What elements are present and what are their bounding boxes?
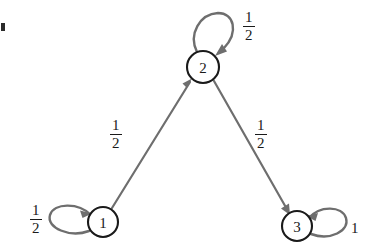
edge-1-to-2 — [112, 79, 192, 209]
edge-1-to-2-line — [112, 82, 190, 208]
edge-2-to-3-line — [214, 81, 288, 211]
node-2-label: 2 — [199, 60, 207, 76]
node-2[interactable]: 2 — [187, 51, 219, 83]
self-loop-node-3-path — [309, 209, 347, 237]
self-loop-node-1-path — [50, 206, 91, 234]
edge-label-1-to-2-denominator: 2 — [110, 135, 122, 151]
edge-label-2-to-2-numerator: 1 — [243, 10, 255, 27]
edge-label-2-to-3: 1 2 — [255, 118, 267, 151]
edge-label-1-to-2-numerator: 1 — [110, 118, 122, 135]
edge-label-2-to-2-denominator: 2 — [243, 27, 255, 43]
edge-label-1-to-1: 1 2 — [30, 203, 42, 236]
edge-label-1-to-2: 1 2 — [110, 118, 122, 151]
edge-label-2-to-3-denominator: 2 — [255, 135, 267, 151]
self-loop-node-2 — [194, 13, 233, 56]
self-loop-node-1 — [50, 206, 92, 234]
node-3-label: 3 — [293, 219, 301, 235]
edge-label-3-to-3: 1 — [351, 221, 359, 236]
edge-label-2-to-3-numerator: 1 — [255, 118, 267, 135]
node-3[interactable]: 3 — [282, 211, 312, 241]
node-1-label: 1 — [99, 215, 107, 231]
node-1[interactable]: 1 — [88, 207, 118, 237]
edge-label-1-to-1-denominator: 2 — [30, 220, 42, 236]
edge-label-1-to-1-numerator: 1 — [30, 203, 42, 220]
edge-2-to-3 — [214, 81, 290, 215]
self-loop-node-2-path — [194, 13, 233, 52]
state-transition-graph: 1 2 3 — [0, 0, 368, 251]
diagram-canvas: 1 2 3 1 2 1 2 1 2 1 2 1 — [0, 0, 368, 251]
edge-label-2-to-2: 1 2 — [243, 10, 255, 43]
